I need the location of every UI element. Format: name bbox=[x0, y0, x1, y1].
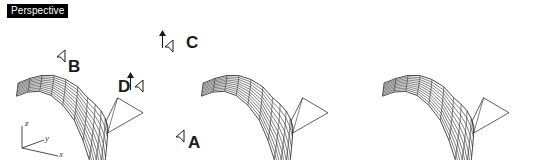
surface-wireframe-2[interactable] bbox=[185, 0, 370, 160]
cursor-arrow-d-icon bbox=[133, 78, 147, 94]
drag-arrow-up-c-icon bbox=[158, 30, 167, 48]
perspective-viewport: Perspective z y x A B C D bbox=[0, 0, 547, 160]
surface-view-right[interactable] bbox=[370, 0, 547, 160]
cursor-arrow-a-icon bbox=[174, 128, 188, 144]
axis-label-z: z bbox=[24, 118, 29, 128]
axis-label-y: y bbox=[44, 133, 49, 143]
annotation-label-c: C bbox=[186, 34, 198, 51]
axis-label-x: x bbox=[58, 149, 63, 158]
annotation-label-a: A bbox=[188, 134, 200, 151]
cursor-arrow-b-icon bbox=[55, 48, 69, 64]
surface-wireframe-3[interactable] bbox=[370, 0, 547, 160]
annotation-label-b: B bbox=[68, 58, 80, 75]
world-axis-gizmo: z y x bbox=[12, 118, 74, 158]
viewport-label[interactable]: Perspective bbox=[7, 4, 68, 18]
surface-view-middle[interactable] bbox=[185, 0, 370, 160]
drag-arrow-up-d-icon bbox=[126, 72, 135, 90]
